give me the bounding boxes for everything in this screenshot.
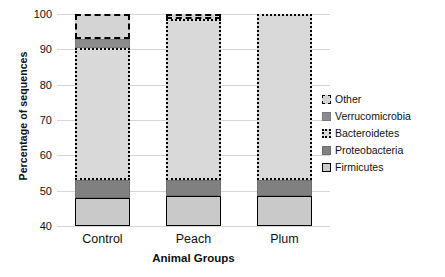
legend-swatch-icon xyxy=(322,112,331,121)
legend-label: Verrucomicrobia xyxy=(335,111,411,122)
bar-segment-firmicutes[interactable] xyxy=(75,198,130,226)
legend-swatch-icon xyxy=(322,163,331,172)
legend-label: Proteobacteria xyxy=(335,145,403,156)
x-tick-label: Peach xyxy=(148,232,239,246)
legend-item-verrucomicrobia[interactable]: Verrucomicrobia xyxy=(322,108,442,125)
plot-area xyxy=(57,14,330,226)
bar-segment-firmicutes[interactable] xyxy=(257,196,312,226)
bar-segment-proteobacteria[interactable] xyxy=(75,180,130,198)
stacked-bar[interactable] xyxy=(257,14,312,226)
y-tick-label: 80 xyxy=(40,79,52,91)
bar-segment-verrucomicrobia[interactable] xyxy=(75,39,130,48)
y-tick-label: 40 xyxy=(40,220,52,232)
bar-slot xyxy=(166,14,221,226)
bar-slot xyxy=(75,14,130,226)
bar-segment-bacteroidetes[interactable] xyxy=(257,14,312,180)
bar-slot xyxy=(257,14,312,226)
legend-swatch-icon xyxy=(322,129,331,138)
bar-segment-proteobacteria[interactable] xyxy=(257,180,312,196)
legend-item-other[interactable]: Other xyxy=(322,91,442,108)
x-axis-tick-labels: ControlPeachPlum xyxy=(57,232,330,252)
legend-item-proteobacteria[interactable]: Proteobacteria xyxy=(322,142,442,159)
legend-swatch-icon xyxy=(322,146,331,155)
chart-legend: OtherVerrucomicrobiaBacteroidetesProteob… xyxy=(322,91,442,176)
y-tick-label: 90 xyxy=(40,43,52,55)
y-tick-label: 70 xyxy=(40,114,52,126)
stacked-bar[interactable] xyxy=(166,14,221,226)
bar-segment-proteobacteria[interactable] xyxy=(166,180,221,196)
x-axis-title: Animal Groups xyxy=(57,252,330,264)
bar-segment-bacteroidetes[interactable] xyxy=(75,48,130,181)
y-tick-label: 50 xyxy=(40,185,52,197)
legend-label: Bacteroidetes xyxy=(335,128,399,139)
y-tick-label: 100 xyxy=(34,8,52,20)
stacked-bar[interactable] xyxy=(75,14,130,226)
x-tick-label: Control xyxy=(57,232,148,246)
legend-item-bacteroidetes[interactable]: Bacteroidetes xyxy=(322,125,442,142)
bar-segment-firmicutes[interactable] xyxy=(166,196,221,226)
stacked-bar-chart: Percentage of sequences 405060708090100 … xyxy=(0,0,445,277)
x-tick-label: Plum xyxy=(239,232,330,246)
bar-segment-other[interactable] xyxy=(75,14,130,39)
legend-label: Firmicutes xyxy=(335,162,383,173)
legend-item-firmicutes[interactable]: Firmicutes xyxy=(322,159,442,176)
y-tick-label: 60 xyxy=(40,149,52,161)
legend-swatch-icon xyxy=(322,95,331,104)
gridline xyxy=(57,226,330,227)
legend-label: Other xyxy=(335,94,361,105)
bar-segment-other[interactable] xyxy=(166,14,221,19)
bar-segment-bacteroidetes[interactable] xyxy=(166,19,221,180)
y-axis-tick-labels: 405060708090100 xyxy=(22,14,52,226)
